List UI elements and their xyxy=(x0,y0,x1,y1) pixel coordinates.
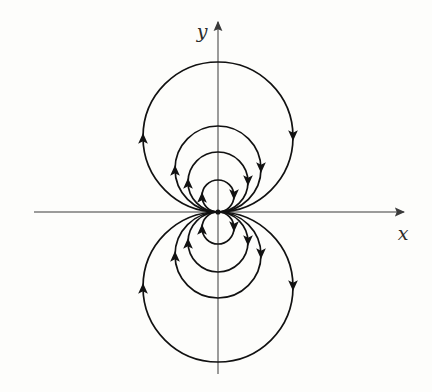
origin-fixed-point xyxy=(215,209,220,214)
y-axis-label: y xyxy=(196,20,208,42)
orbit-arc-left xyxy=(175,212,218,255)
phase-portrait-figure: x y xyxy=(0,0,432,392)
axes-group: x y xyxy=(34,20,409,374)
x-axis-label: x xyxy=(398,222,409,244)
orbit-arc-left xyxy=(175,169,218,212)
phase-portrait-canvas: x y xyxy=(0,0,432,392)
orbit-arc-right xyxy=(218,212,261,255)
orbit-arc-right xyxy=(218,169,261,212)
